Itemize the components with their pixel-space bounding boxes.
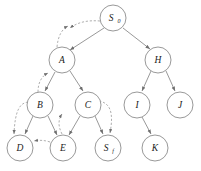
edge-a-c xyxy=(70,71,83,91)
backtrack-e-d xyxy=(34,140,50,142)
tree-edges-group xyxy=(25,28,175,135)
node-label-k: K xyxy=(151,143,159,153)
edge-b-e xyxy=(48,116,57,135)
backtrack-b-a xyxy=(38,73,48,92)
node-h[interactable]: H xyxy=(145,47,171,73)
node-sf[interactable]: S f xyxy=(95,135,121,161)
node-label-sf: S xyxy=(104,143,109,153)
edge-s0-h xyxy=(123,28,150,49)
node-d[interactable]: D xyxy=(7,135,33,161)
node-j[interactable]: J xyxy=(167,92,193,118)
node-i[interactable]: I xyxy=(124,92,150,118)
node-label-a: A xyxy=(58,55,65,65)
nodes-group: S 0 A H B C I xyxy=(7,5,193,161)
node-a[interactable]: A xyxy=(49,47,75,73)
search-tree-graph: S 0 A H B C I xyxy=(0,0,201,171)
edge-c-e xyxy=(69,116,80,135)
backtrack-e-up-c xyxy=(59,114,62,134)
node-s0[interactable]: S 0 xyxy=(100,5,126,31)
node-label-s0: S xyxy=(109,13,114,23)
edge-h-j xyxy=(166,71,175,91)
backtrack-a-s0 xyxy=(57,26,68,47)
node-label-b: B xyxy=(37,100,43,110)
node-label-e: E xyxy=(59,143,66,153)
node-e[interactable]: E xyxy=(50,135,76,161)
edge-b-d xyxy=(25,116,33,134)
diagram-canvas: S 0 A H B C I xyxy=(0,0,201,171)
node-b[interactable]: B xyxy=(27,92,53,118)
backtrack-b-downleft xyxy=(14,102,28,134)
backtrack-s0-upleft xyxy=(70,21,100,28)
node-label-h: H xyxy=(154,55,163,65)
node-c[interactable]: C xyxy=(75,92,101,118)
backtrack-edges-group xyxy=(14,21,112,142)
edge-i-k xyxy=(142,117,151,134)
edge-a-b xyxy=(45,72,55,91)
node-k[interactable]: K xyxy=(142,135,168,161)
edge-s0-a xyxy=(70,28,104,50)
edge-c-sf xyxy=(95,116,103,134)
node-label-c: C xyxy=(85,100,92,110)
node-label-d: D xyxy=(16,143,24,153)
edge-h-i xyxy=(142,71,151,91)
node-sublabel-s0: 0 xyxy=(118,18,121,24)
